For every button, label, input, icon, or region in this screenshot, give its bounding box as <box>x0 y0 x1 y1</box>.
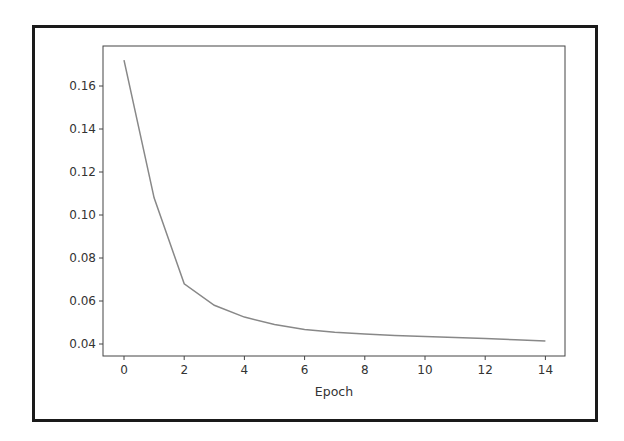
y-tick-label: 0.04 <box>69 337 96 351</box>
x-tick-label: 6 <box>301 363 309 377</box>
x-tick-label: 10 <box>417 363 432 377</box>
y-tick-label: 0.12 <box>69 165 96 179</box>
y-axis-ticks: 0.040.060.080.100.120.140.16 <box>69 79 103 351</box>
plot-area <box>103 46 565 356</box>
y-tick-label: 0.08 <box>69 251 96 265</box>
loss-line <box>124 60 545 341</box>
y-tick-label: 0.06 <box>69 294 96 308</box>
x-tick-label: 14 <box>538 363 553 377</box>
x-tick-label: 12 <box>478 363 493 377</box>
x-tick-label: 2 <box>180 363 188 377</box>
line-chart: 0.040.060.080.100.120.140.16 02468101214… <box>0 0 624 441</box>
x-tick-label: 4 <box>241 363 249 377</box>
y-tick-label: 0.16 <box>69 79 96 93</box>
y-tick-label: 0.14 <box>69 122 96 136</box>
y-tick-label: 0.10 <box>69 208 96 222</box>
x-axis-label: Epoch <box>315 384 353 399</box>
x-axis-ticks: 02468101214 <box>120 356 553 377</box>
x-tick-label: 8 <box>361 363 369 377</box>
x-tick-label: 0 <box>120 363 128 377</box>
